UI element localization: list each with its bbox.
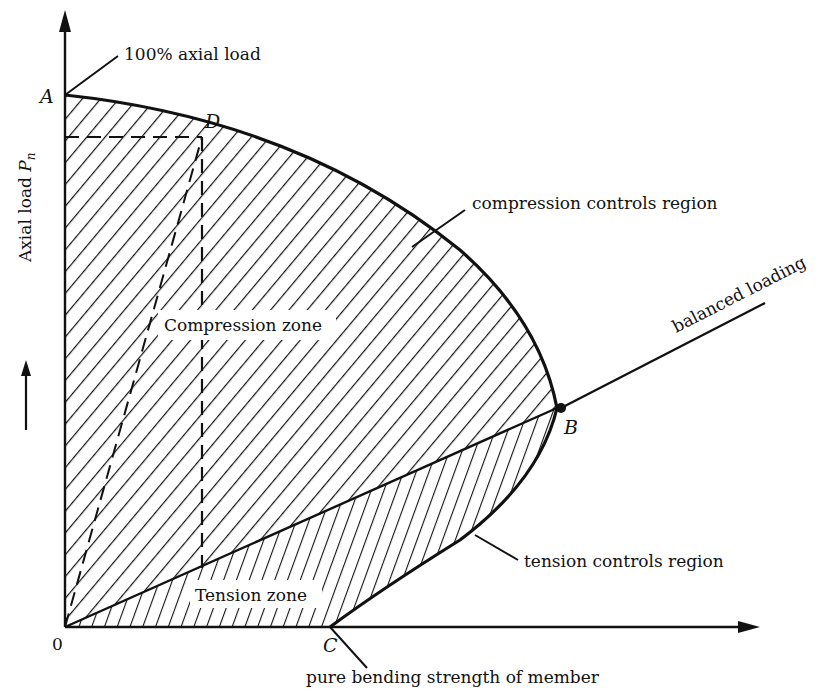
svg-text:Axial load Pn: Axial load Pn xyxy=(15,152,38,263)
point-d-label: D xyxy=(204,110,220,132)
compression-controls-label: compression controls region xyxy=(472,193,718,213)
point-a-label: A xyxy=(38,85,54,107)
origin-label: 0 xyxy=(52,634,63,654)
x-axis-arrow-icon xyxy=(738,621,760,633)
tension-controls-label: tension controls region xyxy=(524,551,724,571)
balanced-loading-label: balanced loading xyxy=(669,252,809,337)
y-axis-title: Axial load Pn xyxy=(15,152,38,263)
leader-balanced-loading xyxy=(561,303,765,408)
interaction-diagram: 100% axial load A D B C 0 compression co… xyxy=(0,0,828,697)
compression-zone-label: Compression zone xyxy=(164,315,322,335)
y-axis-arrow-icon xyxy=(59,10,71,32)
point-b-label: B xyxy=(563,416,578,438)
y-axis-direction-arrow-icon xyxy=(21,360,31,430)
leader-axial-load xyxy=(65,56,118,95)
pure-bending-label: pure bending strength of member xyxy=(306,667,600,687)
axial-load-100-label: 100% axial load xyxy=(124,44,261,64)
tension-zone-label: Tension zone xyxy=(195,585,307,605)
leader-tension-controls xyxy=(475,535,518,560)
point-c-label: C xyxy=(323,634,338,656)
